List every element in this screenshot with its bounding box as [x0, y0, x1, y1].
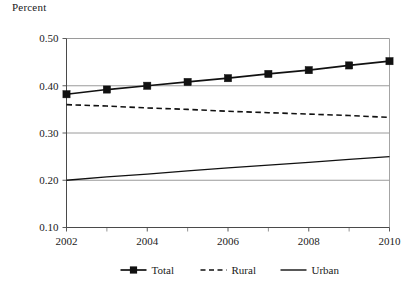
data-series-group [63, 58, 393, 181]
y-tick-label: 0.30 [39, 127, 59, 139]
legend-label-rural: Rural [232, 264, 256, 276]
data-point-marker [103, 86, 110, 93]
x-tick-label: 2002 [56, 235, 78, 247]
y-tick-label: 0.10 [39, 221, 59, 233]
data-point-marker [386, 58, 393, 65]
y-axis-tick-labels: 0.500.400.300.200.10 [39, 32, 59, 233]
y-tick-label: 0.20 [39, 174, 59, 186]
y-tick-label: 0.50 [39, 32, 59, 44]
x-tick-label: 2006 [217, 235, 240, 247]
data-point-marker [184, 78, 191, 85]
y-tick-label: 0.40 [39, 80, 59, 92]
data-point-marker [63, 91, 70, 98]
legend-label-total: Total [152, 264, 174, 276]
x-tick-label: 2010 [379, 235, 402, 247]
data-point-marker [346, 62, 353, 69]
x-tick-label: 2008 [298, 235, 321, 247]
x-axis-ticks [67, 228, 390, 232]
data-point-marker [144, 82, 151, 89]
legend-label-urban: Urban [312, 264, 340, 276]
series-line-rural [67, 105, 390, 118]
chart-figure: Percent 0.500.400.300.200.10 20022004200… [0, 0, 414, 289]
data-point-marker [224, 75, 231, 82]
x-axis-tick-labels: 20022004200620082010 [56, 235, 402, 247]
legend-marker-total [130, 266, 137, 273]
y-axis-ticks [63, 39, 67, 228]
x-tick-label: 2004 [136, 235, 159, 247]
data-point-marker [305, 67, 312, 74]
data-point-marker [265, 70, 272, 77]
chart-legend: TotalRuralUrban [121, 264, 340, 276]
series-line-urban [67, 157, 390, 181]
chart-plot-area: 0.500.400.300.200.10 2002200420062008201… [0, 0, 414, 289]
